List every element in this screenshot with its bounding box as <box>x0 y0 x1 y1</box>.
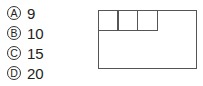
small-square-3 <box>137 10 158 31</box>
option-d[interactable]: D 20 <box>7 63 44 83</box>
option-value-b: 10 <box>27 25 44 42</box>
option-c[interactable]: C 15 <box>7 43 44 63</box>
option-letter-a: A <box>7 6 21 20</box>
option-value-a: 9 <box>27 5 35 22</box>
option-letter-d: D <box>7 66 21 80</box>
option-value-d: 20 <box>27 65 44 82</box>
option-b[interactable]: B 10 <box>7 23 44 43</box>
small-square-2 <box>117 10 138 31</box>
small-square-1 <box>98 10 119 31</box>
option-letter-c: C <box>7 46 21 60</box>
rectangle-figure <box>98 10 197 69</box>
option-letter-b: B <box>7 26 21 40</box>
option-a[interactable]: A 9 <box>7 3 35 23</box>
option-value-c: 15 <box>27 45 44 62</box>
